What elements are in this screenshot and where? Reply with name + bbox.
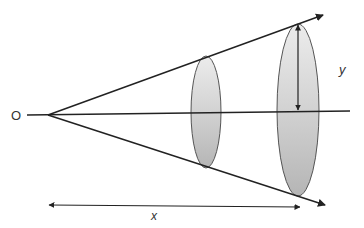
- origin-label: O: [11, 108, 21, 123]
- x-label: x: [150, 209, 158, 223]
- cone-diagram: O y x: [0, 0, 364, 228]
- small-cross-section-ellipse: [191, 56, 221, 168]
- y-label: y: [338, 62, 347, 77]
- x-dimension-arrow: [49, 205, 300, 207]
